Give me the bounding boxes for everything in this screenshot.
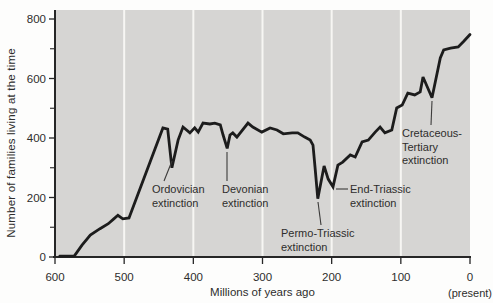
x-tick-label: 500 xyxy=(115,271,134,283)
ordovician-extinction-label: Ordovician extinction xyxy=(152,183,205,210)
permo-triassic-extinction-label: Permo-Triassic extinction xyxy=(281,227,355,254)
y-tick-label: 600 xyxy=(27,73,46,85)
cretaceous-tertiary-extinction-label: Cretaceous- Tertiary extinction xyxy=(402,127,462,168)
y-tick-label: 400 xyxy=(27,132,46,144)
devonian-extinction-label: Devonian extinction xyxy=(222,183,268,210)
x-tick-label: 300 xyxy=(253,271,272,283)
x-tick-label: 400 xyxy=(184,271,203,283)
x-axis-title: Millions of years ago xyxy=(55,286,470,298)
x-tick-label: 200 xyxy=(322,271,341,283)
x-tick-label: 0 xyxy=(467,271,473,283)
x-tick-label: 100 xyxy=(391,271,410,283)
x-tick-label: 600 xyxy=(45,271,64,283)
present-note-label: (present) xyxy=(428,287,493,299)
end-triassic-extinction-label: End-Triassic extinction xyxy=(350,183,411,210)
y-tick-label: 200 xyxy=(27,192,46,204)
y-tick-label: 800 xyxy=(27,13,46,25)
y-tick-label: 0 xyxy=(40,251,46,263)
mass-extinctions-chart: 02004006008006005004003002001000 Number … xyxy=(0,0,493,303)
y-axis-title: Number of families living at the time xyxy=(5,48,17,238)
